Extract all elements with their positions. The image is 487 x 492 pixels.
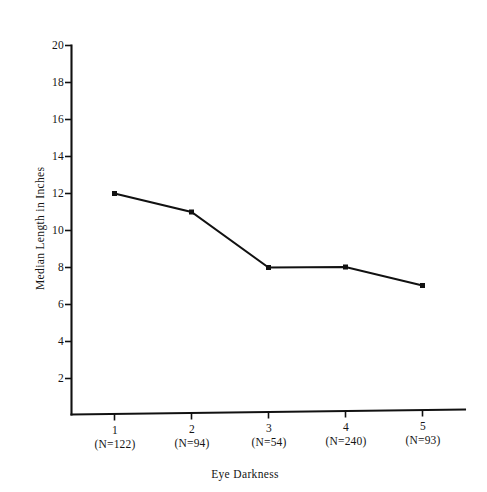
data-point-2: [189, 210, 194, 215]
data-point-5: [420, 283, 425, 288]
x-axis-title: Eye Darkness: [145, 468, 345, 480]
plot-area: [0, 0, 487, 492]
x-tick-label-1: 1: [75, 424, 155, 436]
series-line-median-length: [115, 194, 423, 286]
chart-figure: Median Length in Inches 20 18 16 14 12 1…: [0, 0, 487, 492]
x-tick-label-4: 4: [306, 421, 386, 433]
data-point-1: [112, 191, 117, 196]
data-point-4: [343, 265, 348, 270]
x-tick-label-5: 5: [383, 420, 463, 432]
x-tick-label-3: 3: [229, 422, 309, 434]
data-point-3: [266, 265, 271, 270]
x-tick-label-2: 2: [152, 423, 232, 435]
x-tick-count-5: (N=93): [378, 434, 468, 446]
series-markers: [112, 191, 425, 288]
